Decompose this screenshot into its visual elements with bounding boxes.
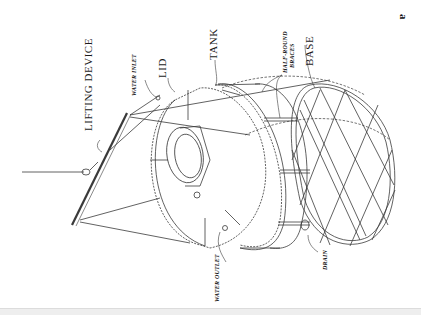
label-tank: TANK [208, 28, 219, 60]
label-water-outlet: WATER OUTLET [214, 254, 220, 302]
label-lid: LID [157, 58, 168, 78]
label-drain: DRAIN [322, 250, 328, 270]
label-lifting-device: LIFTING DEVICE [83, 38, 94, 131]
label-half-round-braces-2: BRACES [289, 43, 295, 68]
lid [150, 88, 266, 248]
figure-label: a [398, 14, 410, 20]
label-half-round-braces-1: HALF-ROUND [282, 31, 288, 73]
bottom-divider [0, 308, 421, 315]
label-water-inlet: WATER INLET [131, 54, 137, 96]
tank [215, 84, 310, 250]
label-base: BASE [304, 36, 315, 66]
assembly-guide-lines [222, 76, 390, 140]
